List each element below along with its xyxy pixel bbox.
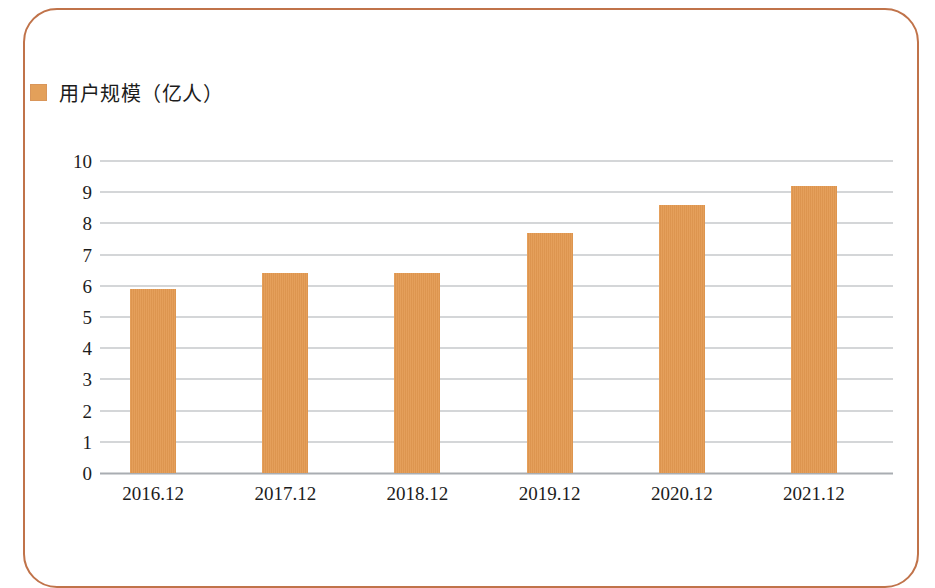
- x-tick-label-2019.12: 2019.12: [519, 484, 581, 503]
- x-tick-label-2017.12: 2017.12: [254, 484, 316, 503]
- bar-2017.12: [262, 273, 308, 473]
- legend-label-user-scale: 用户规模（亿人）: [59, 78, 223, 107]
- y-tick-label-5: 5: [83, 308, 93, 327]
- y-tick-label-2: 2: [83, 401, 93, 420]
- bar-2020.12: [659, 205, 705, 473]
- y-tick-label-6: 6: [83, 276, 93, 295]
- x-tick-label-2016.12: 2016.12: [122, 484, 184, 503]
- bar-2019.12: [527, 233, 573, 473]
- x-tick-label-2018.12: 2018.12: [387, 484, 449, 503]
- y-tick-label-3: 3: [83, 370, 93, 389]
- y-tick-label-10: 10: [73, 152, 92, 171]
- plot-area: [100, 161, 893, 473]
- y-tick-label-0: 0: [83, 464, 93, 483]
- y-tick-label-4: 4: [83, 339, 93, 358]
- y-tick-label-9: 9: [83, 183, 93, 202]
- legend-swatch-user-scale: [30, 84, 47, 101]
- x-tick-label-2020.12: 2020.12: [651, 484, 713, 503]
- bar-2018.12: [394, 273, 440, 473]
- x-axis-tick-labels: 2016.122017.122018.122019.122020.122021.…: [100, 484, 893, 512]
- y-axis-tick-labels: 109876543210: [46, 161, 92, 473]
- x-tick-label-2021.12: 2021.12: [783, 484, 845, 503]
- y-tick-label-1: 1: [83, 432, 93, 451]
- bar-2016.12: [130, 289, 176, 473]
- chart-legend: 用户规模（亿人）: [30, 80, 223, 104]
- bar-series-user-scale: [100, 161, 893, 473]
- y-tick-label-8: 8: [83, 214, 93, 233]
- bar-2021.12: [791, 186, 837, 473]
- y-tick-label-7: 7: [83, 245, 93, 264]
